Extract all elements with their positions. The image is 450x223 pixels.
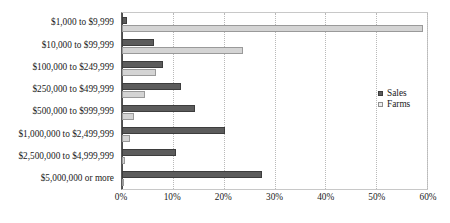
bar-sales xyxy=(122,149,176,156)
bar-group xyxy=(122,57,427,79)
category-label: $5,000,000 or more xyxy=(0,168,118,190)
bar-farms xyxy=(122,179,124,186)
bar-farms xyxy=(122,135,130,142)
bar-group xyxy=(122,35,427,57)
category-label: $1,000,000 to $2,499,999 xyxy=(0,123,118,145)
bar-farms xyxy=(122,113,134,120)
x-tick-label: 0% xyxy=(115,192,127,202)
bar-group xyxy=(122,13,427,35)
bar-sales xyxy=(122,83,181,90)
bar-group xyxy=(122,167,427,189)
bar-farms xyxy=(122,91,145,98)
bar-farms xyxy=(122,69,156,76)
bar-farms xyxy=(122,47,243,54)
x-tick-label: 40% xyxy=(317,192,334,202)
bar-group xyxy=(122,145,427,167)
legend-item-sales: Sales xyxy=(378,88,410,98)
legend-swatch-icon xyxy=(378,91,383,96)
category-label: $100,000 to $249,999 xyxy=(0,57,118,79)
bar-chart: $1,000 to $9,999 $10,000 to $99,999 $100… xyxy=(0,0,450,223)
legend-label: Sales xyxy=(387,88,407,98)
bar-sales xyxy=(122,17,127,24)
bar-farms xyxy=(122,25,423,32)
category-label: $1,000 to $9,999 xyxy=(0,12,118,34)
category-label: $10,000 to $99,999 xyxy=(0,34,118,56)
bar-sales xyxy=(122,171,262,178)
bar-sales xyxy=(122,61,163,68)
bar-sales xyxy=(122,127,225,134)
legend: Sales Farms xyxy=(378,88,410,109)
bar-farms xyxy=(122,157,125,164)
legend-swatch-icon xyxy=(378,102,383,107)
category-label: $2,500,000 to $4,999,999 xyxy=(0,146,118,168)
category-label: $500,000 to $999,999 xyxy=(0,101,118,123)
bar-sales xyxy=(122,105,195,112)
x-tick-label: 30% xyxy=(266,192,283,202)
category-axis-labels: $1,000 to $9,999 $10,000 to $99,999 $100… xyxy=(0,12,118,190)
value-axis-ticks: 0%10%20%30%40%50%60% xyxy=(121,192,428,208)
legend-item-farms: Farms xyxy=(378,99,410,109)
bar-sales xyxy=(122,39,154,46)
x-tick-label: 60% xyxy=(419,192,436,202)
legend-label: Farms xyxy=(387,99,410,109)
gridline xyxy=(427,13,428,189)
x-tick-label: 10% xyxy=(164,192,181,202)
category-label: $250,000 to $499,999 xyxy=(0,79,118,101)
x-tick-label: 50% xyxy=(368,192,385,202)
x-tick-label: 20% xyxy=(215,192,232,202)
bar-group xyxy=(122,123,427,145)
